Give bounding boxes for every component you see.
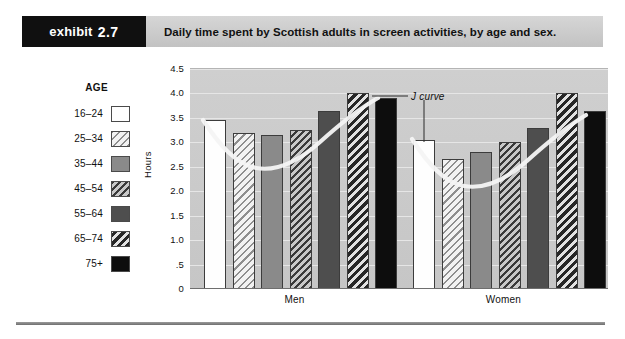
exhibit-header: exhibit 2.7 Daily time spent by Scottish… bbox=[22, 16, 603, 47]
bar-men-45-54 bbox=[290, 130, 312, 289]
legend-item-label: 16–24 bbox=[74, 108, 103, 119]
bar-women-65-74 bbox=[556, 93, 578, 289]
bar-women-35-44 bbox=[470, 152, 492, 289]
y-tick-label: 1.0 bbox=[170, 234, 184, 245]
y-tick-label: 3.0 bbox=[170, 136, 184, 147]
legend-item-label: 55–64 bbox=[74, 208, 103, 219]
gridline bbox=[190, 93, 608, 94]
bar-women-75+ bbox=[584, 111, 606, 289]
y-axis-ticks: 0.51.01.52.02.53.03.54.04.5 bbox=[152, 68, 184, 288]
chart-figure: AGE 16–24 25–34 35–44 45–54 55–64 65–74 … bbox=[0, 50, 625, 305]
group-label-women: Women bbox=[399, 294, 608, 305]
y-tick-label: 4.5 bbox=[170, 63, 184, 74]
y-tick-label: .5 bbox=[176, 258, 184, 269]
legend-swatch-45-54 bbox=[111, 181, 130, 197]
y-tick-label: 0 bbox=[179, 283, 184, 294]
bar-women-25-34 bbox=[442, 159, 464, 289]
legend-item-label: 35–44 bbox=[74, 158, 103, 169]
legend-item-label: 65–74 bbox=[74, 233, 103, 244]
gridline bbox=[190, 118, 608, 119]
legend-item-35-44: 35–44 bbox=[18, 151, 130, 176]
bar-women-16-24 bbox=[413, 140, 435, 289]
bar-men-16-24 bbox=[204, 120, 226, 289]
bar-men-75+ bbox=[375, 98, 397, 289]
legend-swatch-16-24 bbox=[111, 106, 130, 122]
footer-rule bbox=[16, 322, 605, 325]
legend-title: AGE bbox=[18, 82, 130, 93]
bar-men-55-64 bbox=[318, 111, 340, 289]
legend-item-75-plus: 75+ bbox=[18, 251, 130, 276]
legend-item-label: 25–34 bbox=[74, 133, 103, 144]
legend-item-55-64: 55–64 bbox=[18, 201, 130, 226]
bar-men-65-74 bbox=[347, 93, 369, 289]
exhibit-title: Daily time spent by Scottish adults in s… bbox=[146, 16, 603, 47]
y-tick-label: 3.5 bbox=[170, 111, 184, 122]
legend-swatch-65-74 bbox=[111, 231, 130, 247]
legend-swatch-75-plus bbox=[111, 256, 130, 272]
y-tick-label: 2.0 bbox=[170, 185, 184, 196]
exhibit-badge-word: exhibit bbox=[49, 24, 92, 39]
y-tick-label: 1.5 bbox=[170, 209, 184, 220]
bar-women-55-64 bbox=[527, 128, 549, 289]
legend-item-45-54: 45–54 bbox=[18, 176, 130, 201]
y-tick-label: 2.5 bbox=[170, 160, 184, 171]
legend-item-25-34: 25–34 bbox=[18, 126, 130, 151]
y-tick-label: 4.0 bbox=[170, 87, 184, 98]
x-axis-line bbox=[190, 288, 608, 289]
legend-item-16-24: 16–24 bbox=[18, 101, 130, 126]
legend-swatch-35-44 bbox=[111, 156, 130, 172]
legend-item-label: 75+ bbox=[85, 258, 103, 269]
bar-men-25-34 bbox=[233, 133, 255, 289]
exhibit-badge: exhibit 2.7 bbox=[22, 16, 146, 47]
legend-swatch-25-34 bbox=[111, 131, 130, 147]
legend-item-label: 45–54 bbox=[74, 183, 103, 194]
bar-women-45-54 bbox=[499, 142, 521, 289]
exhibit-badge-number: 2.7 bbox=[98, 24, 119, 40]
legend-swatch-55-64 bbox=[111, 206, 130, 222]
plot-area bbox=[190, 68, 608, 289]
legend-item-65-74: 65–74 bbox=[18, 226, 130, 251]
chart-legend: AGE 16–24 25–34 35–44 45–54 55–64 65–74 … bbox=[18, 82, 130, 276]
gridline bbox=[190, 69, 608, 70]
group-label-men: Men bbox=[190, 294, 399, 305]
bar-men-35-44 bbox=[261, 135, 283, 289]
